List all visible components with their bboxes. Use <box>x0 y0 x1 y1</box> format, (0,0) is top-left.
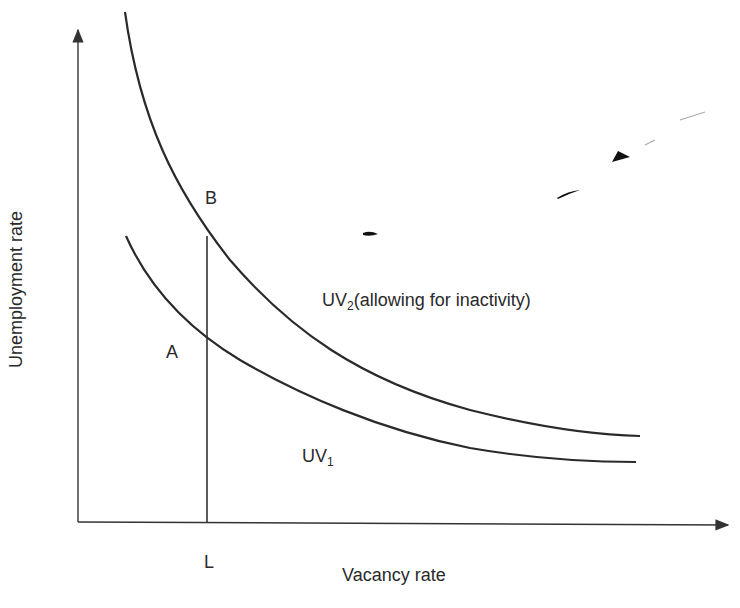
point-b-label: B <box>205 188 217 209</box>
scan-artifact <box>645 112 705 145</box>
scan-artifact <box>363 232 378 236</box>
uv2-label: UV2(allowing for inactivity) <box>322 290 531 313</box>
x-axis-label: Vacancy rate <box>342 565 446 586</box>
curve-uv2 <box>125 12 640 436</box>
uv1-label-sub: 1 <box>327 455 334 469</box>
uv1-label-main: UV <box>302 446 327 466</box>
y-axis-label: Unemployment rate <box>6 211 27 368</box>
scan-artifact <box>557 190 580 199</box>
uv2-label-suffix: (allowing for inactivity) <box>354 290 531 310</box>
uv1-label: UV1 <box>302 446 334 469</box>
x-axis <box>78 522 728 525</box>
uv2-label-sub: 2 <box>347 299 354 313</box>
uv2-label-main: UV <box>322 290 347 310</box>
l-tick-label: L <box>204 552 214 573</box>
point-a-label: A <box>166 342 178 363</box>
scan-artifact <box>612 151 630 162</box>
